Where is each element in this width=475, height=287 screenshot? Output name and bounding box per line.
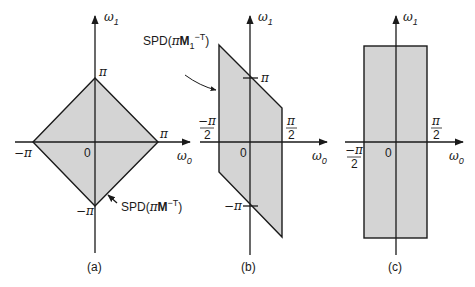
spd-annotation-b: SPD(πM1−T) [143,32,209,51]
tick-label-right-fraction: π 2 [431,114,442,142]
spd-annotation-a: SPD(πM−T) [121,198,182,214]
tick-label-left: −π [14,146,33,160]
svg-text:−π: −π [345,143,364,157]
caption-b: (b) [241,260,256,274]
spd-figure: ω1 ω0 0 π π −π −π SPD(πM−T) (a) ω1 ω0 0 … [0,0,475,287]
omega1-label: ω1 [403,10,418,27]
svg-text:π: π [286,114,296,128]
tick-label-bottom: −π [76,204,95,218]
tick-label-bottom: −π [224,199,243,213]
tick-label-left-fraction: −π 2 [345,143,364,171]
tick-label-top: π [98,65,108,79]
panel-a: ω1 ω0 0 π π −π −π SPD(πM−T) (a) [14,10,192,274]
omega1-label: ω1 [258,10,273,27]
tick-label-right: π [159,127,169,141]
svg-text:−π: −π [198,114,217,128]
caption-a: (a) [87,260,102,274]
panel-c: ω1 ω0 0 −π 2 π 2 (c) [345,10,464,274]
caption-c: (c) [388,260,402,274]
omega0-label: ω0 [177,149,192,166]
omega0-label: ω0 [312,149,327,166]
svg-text:2: 2 [433,128,440,142]
svg-text:2: 2 [351,157,358,171]
svg-text:π: π [431,114,441,128]
omega0-label: ω0 [449,149,464,166]
tick-label-top: π [260,71,270,85]
tick-label-right-fraction: π 2 [286,114,297,142]
svg-text:2: 2 [204,128,211,142]
origin-label: 0 [84,146,91,160]
origin-label: 0 [240,146,247,160]
annotation-arrow [185,75,216,90]
origin-label: 0 [385,146,392,160]
omega1-label: ω1 [104,10,119,27]
annotation-arrow [108,195,117,203]
svg-text:2: 2 [288,128,295,142]
tick-label-left-fraction: −π 2 [198,114,217,142]
